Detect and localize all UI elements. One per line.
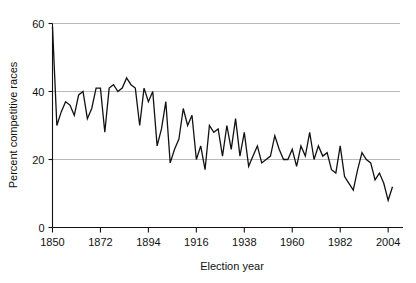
x-tick-label-1872: 1872 [88,236,112,248]
y-tick-label-60: 60 [32,18,44,30]
x-tick-label-1960: 1960 [280,236,304,248]
line-chart: 18501872189419161938196019822004 0204060… [0,0,416,283]
y-axis-title: Percent competitive races [7,61,19,188]
x-tick-label-1982: 1982 [328,236,352,248]
x-tick-label-2004: 2004 [376,236,400,248]
y-tick-label-40: 40 [32,86,44,98]
chart-container: 18501872189419161938196019822004 0204060… [0,0,416,283]
x-tick-label-1938: 1938 [232,236,256,248]
y-tick-label-20: 20 [32,154,44,166]
x-tick-label-1850: 1850 [40,236,64,248]
x-tick-label-1916: 1916 [184,236,208,248]
x-axis-title: Election year [200,260,264,272]
x-tick-label-1894: 1894 [136,236,160,248]
y-tick-label-0: 0 [38,222,44,234]
